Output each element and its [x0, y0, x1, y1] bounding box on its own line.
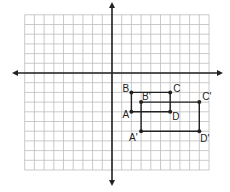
vertex-label: B	[122, 83, 129, 94]
vertex-label: C	[173, 83, 180, 94]
vertex-label: D	[172, 111, 179, 122]
vertex-point	[168, 90, 172, 94]
vertex-point	[197, 100, 201, 104]
axes	[12, 2, 223, 186]
x-axis-left-arrow-icon	[12, 70, 18, 76]
vertex-label: D'	[200, 133, 209, 144]
vertex-point	[129, 110, 133, 114]
vertex-point	[139, 129, 143, 133]
coordinate-plane: ABCDA'B'C'D'	[0, 0, 230, 192]
vertex-label: B'	[142, 91, 151, 102]
vertex-label: C'	[202, 91, 211, 102]
grid-lines	[25, 15, 209, 170]
vertex-label: A	[122, 109, 129, 120]
y-axis-up-arrow-icon	[109, 2, 115, 8]
x-axis-right-arrow-icon	[217, 70, 223, 76]
vertex-label: A'	[129, 132, 138, 143]
vertex-point	[129, 90, 133, 94]
y-axis-down-arrow-icon	[109, 180, 115, 186]
